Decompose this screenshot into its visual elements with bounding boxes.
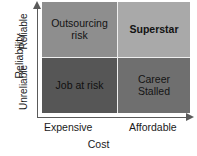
quadrant-label: Superstar xyxy=(129,24,178,36)
quadrant-label: Career Stalled xyxy=(138,74,170,98)
quadrant-label: Outsourcing risk xyxy=(51,18,108,42)
x-axis-line xyxy=(37,117,187,118)
x-axis-title: Cost xyxy=(0,138,197,150)
matrix-plot-area: Outsourcing risk Superstar Job at risk C… xyxy=(42,2,190,113)
y-axis-tick-unreliable: Unreliable xyxy=(18,53,29,123)
x-axis-arrow-icon xyxy=(186,113,194,121)
quadrant-career-stalled: Career Stalled xyxy=(118,58,190,113)
x-axis-tick-affordable: Affordable xyxy=(129,121,177,133)
y-axis-line xyxy=(37,8,38,117)
quadrant-job-at-risk: Job at risk xyxy=(42,58,118,113)
x-axis-tick-expensive: Expensive xyxy=(44,121,92,133)
quadrant-outsourcing-risk: Outsourcing risk xyxy=(42,2,118,58)
quadrant-superstar: Superstar xyxy=(118,2,190,58)
quadrant-matrix-chart: Reliability Reliable Unreliable Outsourc… xyxy=(0,0,197,156)
y-axis-arrow-icon xyxy=(33,1,41,9)
quadrant-label: Job at risk xyxy=(56,80,104,92)
